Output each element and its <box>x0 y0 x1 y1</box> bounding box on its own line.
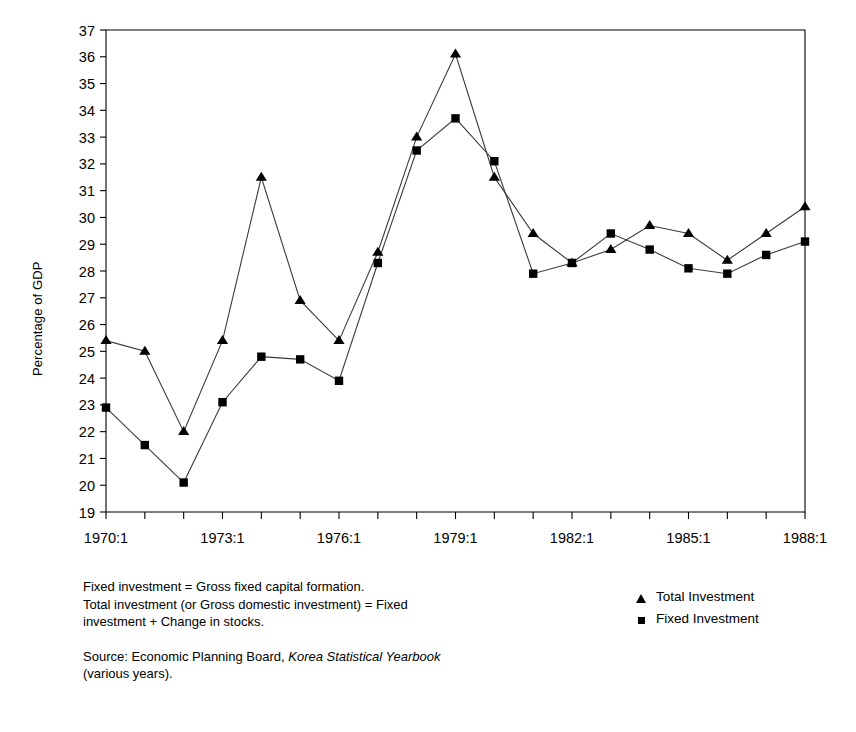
data-point-triangle <box>644 220 655 229</box>
plot-frame <box>106 30 805 512</box>
y-axis-tick-label: 35 <box>79 76 95 92</box>
y-axis-tick-label: 19 <box>79 505 95 521</box>
data-point-square <box>141 441 149 449</box>
x-axis-tick-label: 1973:1 <box>200 530 244 546</box>
data-point-square <box>568 259 576 267</box>
data-point-square <box>451 114 459 122</box>
data-point-square <box>412 146 420 154</box>
y-axis-tick-label: 31 <box>79 183 95 199</box>
x-axis-tick-label: 1976:1 <box>317 530 361 546</box>
legend-label-fixed-investment: Fixed Investment <box>656 608 759 630</box>
data-point-triangle <box>411 132 422 141</box>
data-point-square <box>296 355 304 363</box>
data-point-triangle <box>100 335 111 344</box>
data-point-square <box>218 398 226 406</box>
chart-legend: Total Investment Fixed Investment <box>636 586 836 630</box>
note-source-line: Source: Economic Planning Board, Korea S… <box>83 648 513 666</box>
y-axis-tick-label: 27 <box>79 290 95 306</box>
data-point-square <box>762 251 770 259</box>
data-point-square <box>529 269 537 277</box>
data-point-triangle <box>799 201 810 210</box>
triangle-marker-icon <box>636 592 647 603</box>
data-point-square <box>801 237 809 245</box>
x-axis-tick-label: 1982:1 <box>550 530 594 546</box>
x-axis-tick-label: 1979:1 <box>433 530 477 546</box>
source-publication-title: Korea Statistical Yearbook <box>288 649 440 664</box>
y-axis-tick-label: 21 <box>79 451 95 467</box>
y-axis-tick-label: 20 <box>79 478 95 494</box>
y-axis-tick-label: 22 <box>79 424 95 440</box>
y-axis-tick-label: 30 <box>79 210 95 226</box>
data-point-square <box>684 264 692 272</box>
notes-spacer <box>83 631 513 648</box>
square-marker-icon <box>636 614 647 625</box>
y-axis-tick-label: 36 <box>79 49 95 65</box>
y-axis-tick-label: 25 <box>79 344 95 360</box>
y-axis-tick-label: 26 <box>79 317 95 333</box>
chart-notes: Fixed investment = Gross fixed capital f… <box>83 578 513 683</box>
note-definition-line-2: Total investment (or Gross domestic inve… <box>83 596 513 614</box>
note-source-years: (various years). <box>83 665 513 683</box>
legend-item-total-investment: Total Investment <box>636 586 836 608</box>
x-axis-tick-label: 1985:1 <box>666 530 710 546</box>
source-prefix: Source: Economic Planning Board, <box>83 649 288 664</box>
data-point-square <box>257 352 265 360</box>
y-axis-tick-label: 32 <box>79 156 95 172</box>
data-point-square <box>102 403 110 411</box>
data-point-square <box>490 157 498 165</box>
data-point-square <box>723 269 731 277</box>
legend-item-fixed-investment: Fixed Investment <box>636 608 836 630</box>
note-definition-line-3: investment + Change in stocks. <box>83 613 513 631</box>
data-point-triangle <box>450 49 461 58</box>
series-line <box>106 54 805 432</box>
y-axis-tick-label: 29 <box>79 237 95 253</box>
note-definition-line-1: Fixed investment = Gross fixed capital f… <box>83 578 513 596</box>
investment-chart-figure: Percentage of GDP 1920212223242526272829… <box>0 0 856 732</box>
x-axis-tick-label: 1988:1 <box>783 530 827 546</box>
y-axis-tick-label: 33 <box>79 130 95 146</box>
legend-label-total-investment: Total Investment <box>656 586 754 608</box>
series-line <box>106 118 805 482</box>
data-point-triangle <box>722 255 733 264</box>
y-axis-tick-label: 24 <box>79 371 95 387</box>
x-axis-tick-label: 1970:1 <box>84 530 128 546</box>
data-point-square <box>645 245 653 253</box>
data-point-triangle <box>605 244 616 253</box>
data-point-triangle <box>528 228 539 237</box>
y-axis-tick-label: 28 <box>79 264 95 280</box>
data-point-triangle <box>217 335 228 344</box>
y-axis-tick-label: 23 <box>79 397 95 413</box>
line-chart-svg: 1920212223242526272829303132333435363719… <box>0 0 856 560</box>
data-point-triangle <box>295 295 306 304</box>
data-point-square <box>607 229 615 237</box>
chart-plot-area: Percentage of GDP 1920212223242526272829… <box>0 0 856 560</box>
data-point-square <box>374 259 382 267</box>
y-axis-tick-label: 34 <box>79 103 95 119</box>
data-point-triangle <box>256 172 267 181</box>
data-point-triangle <box>761 228 772 237</box>
data-point-square <box>179 478 187 486</box>
data-point-triangle <box>178 426 189 435</box>
data-point-square <box>335 377 343 385</box>
y-axis-tick-label: 37 <box>79 23 95 39</box>
